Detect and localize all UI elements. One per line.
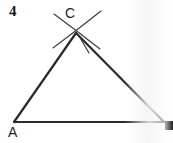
construction-arc-right	[53, 11, 101, 48]
triangle-side-cb	[76, 33, 164, 122]
triangle-side-ac	[14, 33, 76, 122]
geometry-construction-figure: 4 C A	[0, 0, 173, 143]
vertex-label-c: C	[65, 6, 75, 20]
vertex-label-a: A	[8, 125, 17, 139]
scan-edge-mark	[165, 121, 173, 130]
construction-arc-left	[54, 14, 100, 49]
triangle-drawing	[0, 0, 173, 143]
problem-number-label: 4	[9, 4, 17, 19]
